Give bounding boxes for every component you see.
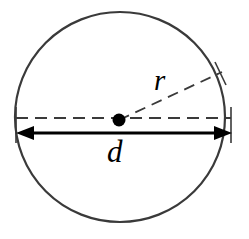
diameter-label: d bbox=[107, 136, 123, 167]
diameter-arrowhead-left bbox=[16, 126, 34, 140]
circle-diagram-figure: r d bbox=[0, 0, 249, 239]
circle-diagram-canvas bbox=[0, 0, 249, 239]
radius-dashed-line bbox=[119, 72, 222, 120]
radius-label: r bbox=[154, 66, 165, 95]
center-point-dot bbox=[113, 114, 126, 127]
